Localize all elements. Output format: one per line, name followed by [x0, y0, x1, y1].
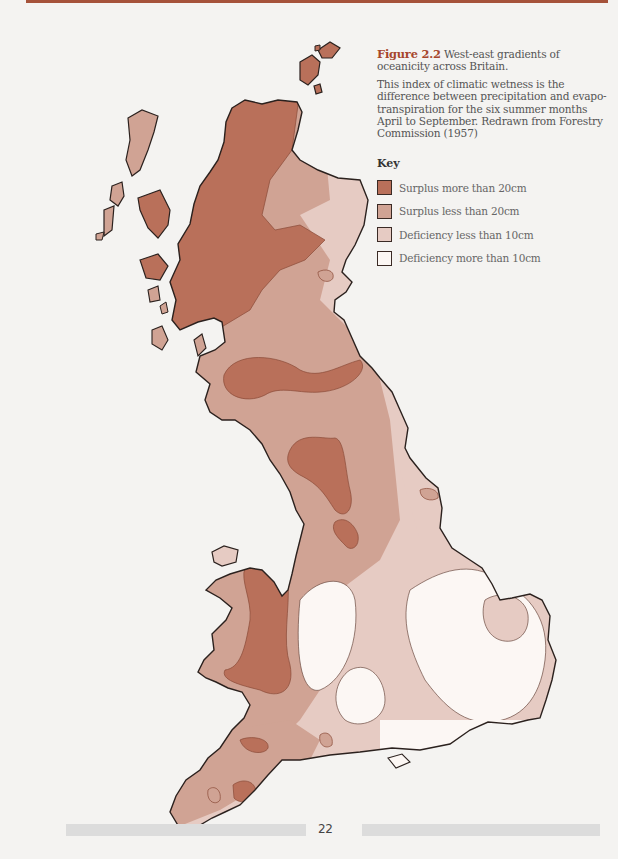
key-title: Key — [377, 157, 541, 170]
figure-label: Figure 2.2 — [377, 47, 441, 61]
footer-bar-left — [66, 824, 306, 836]
figure-description: This index of climatic wetness is the di… — [377, 78, 613, 140]
key-label: Deficiency less than 10cm — [399, 229, 533, 241]
figure-caption: Figure 2.2 West-east gradients of oceani… — [377, 48, 613, 145]
map-key: Key Surplus more than 20cm Surplus less … — [377, 157, 541, 270]
swatch-surplus-low — [377, 204, 392, 219]
swatch-surplus-high — [377, 180, 392, 195]
key-label: Surplus less than 20cm — [399, 205, 519, 217]
swatch-deficiency-high — [377, 251, 392, 266]
footer-bar-right — [362, 824, 600, 836]
page-number: 22 — [318, 822, 332, 836]
key-item-surplus-low: Surplus less than 20cm — [377, 200, 541, 224]
key-item-deficiency-high: Deficiency more than 10cm — [377, 247, 541, 271]
key-label: Surplus more than 20cm — [399, 182, 527, 194]
key-label: Deficiency more than 10cm — [399, 252, 541, 264]
key-item-deficiency-low: Deficiency less than 10cm — [377, 223, 541, 247]
swatch-deficiency-low — [377, 227, 392, 242]
key-item-surplus-high: Surplus more than 20cm — [377, 176, 541, 200]
